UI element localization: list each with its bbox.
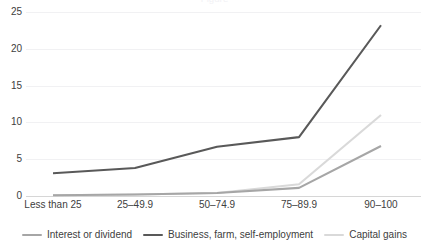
legend-swatch-icon xyxy=(143,234,163,236)
series-layer xyxy=(26,12,421,196)
legend-item[interactable]: Capital gains xyxy=(324,230,407,240)
x-tick-label: 90–100 xyxy=(364,199,397,211)
legend-label: Capital gains xyxy=(349,230,407,240)
legend-label: Business, farm, self-employment xyxy=(168,230,313,240)
legend-item[interactable]: Interest or dividend xyxy=(22,230,132,240)
y-tick-label: 15 xyxy=(0,81,22,91)
x-tick-label: Less than 25 xyxy=(24,199,81,211)
x-tick-label: 50–74.9 xyxy=(199,199,235,211)
legend-label: Interest or dividend xyxy=(47,230,132,240)
series-line xyxy=(53,25,381,173)
legend-swatch-icon xyxy=(22,234,42,236)
x-axis: Less than 2525–49.950–74.975–89.990–100 xyxy=(26,199,421,215)
y-tick-label: 5 xyxy=(0,154,22,164)
y-tick-label: 0 xyxy=(0,191,22,201)
y-tick-label: 10 xyxy=(0,117,22,127)
legend-item[interactable]: Business, farm, self-employment xyxy=(143,230,313,240)
legend-swatch-icon xyxy=(324,234,344,236)
y-tick-label: 20 xyxy=(0,44,22,54)
chart-title: Figure xyxy=(0,0,429,4)
axis-baseline xyxy=(26,196,421,197)
chart-legend: Interest or dividendBusiness, farm, self… xyxy=(0,224,429,246)
series-line xyxy=(53,115,381,195)
x-tick-label: 25–49.9 xyxy=(117,199,153,211)
y-tick-label: 25 xyxy=(0,7,22,17)
line-chart: Figure 0510152025 Less than 2525–49.950–… xyxy=(0,0,429,246)
x-tick-label: 75–89.9 xyxy=(281,199,317,211)
plot-area xyxy=(26,12,421,196)
